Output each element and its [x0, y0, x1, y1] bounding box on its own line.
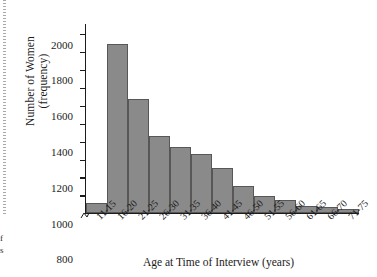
y-tick: 200: [80, 195, 85, 196]
x-axis-title-text: Age at Time of Interview (years): [143, 256, 294, 268]
y-tick-label: 1600: [51, 110, 73, 122]
y-tick: 600: [80, 160, 85, 161]
y-tick-label: 1200: [51, 182, 73, 194]
x-axis-title: Age at Time of Interview (years): [0, 256, 377, 268]
y-axis-title-line1: Number of Women: [24, 6, 37, 156]
y-axis-title-line2: (frequency): [37, 6, 50, 156]
y-tick: 1000: [80, 124, 85, 125]
histogram-bar: [107, 44, 128, 212]
y-tick: 400: [80, 177, 85, 178]
histogram-bars: [86, 25, 359, 213]
scanned-page: f s Number of Women (frequency) 20001800…: [0, 0, 377, 277]
y-tick-label: 1000: [51, 218, 73, 230]
cropped-margin-text-line2: s: [0, 245, 9, 255]
x-axis-tick-labels: 11-1516-2021-2526-3031-3536-4041-4546-50…: [85, 214, 365, 254]
y-tick-label: 1800: [51, 74, 73, 86]
y-tick-label: 1400: [51, 146, 73, 158]
page-margin-artifact: [3, 0, 6, 214]
y-axis-title: Number of Women (frequency): [24, 6, 50, 156]
cropped-margin-text-line1: f: [0, 233, 9, 243]
y-tick-label: 2000: [51, 39, 73, 51]
y-tick: 1800: [80, 52, 85, 53]
histogram-plot-area: 200018001600140012001000800600400200: [85, 24, 359, 214]
y-tick: 800: [80, 142, 85, 143]
y-tick: 1600: [80, 70, 85, 71]
histogram-bar: [128, 99, 149, 213]
y-tick: 1400: [80, 88, 85, 89]
y-tick: 1200: [80, 106, 85, 107]
y-tick: 2000: [80, 34, 85, 35]
